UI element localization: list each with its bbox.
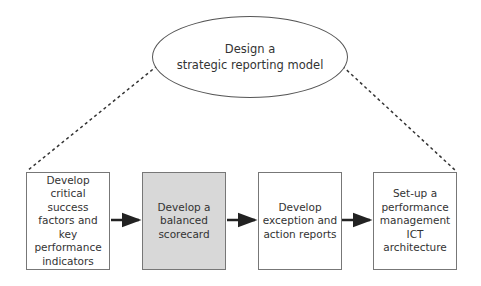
step-label: Develop exception and action reports (262, 201, 338, 242)
step-label: Develop critical success factors and key… (30, 174, 106, 269)
step-label: Develop a balanced scorecard (146, 201, 222, 242)
step-exception-reports: Develop exception and action reports (258, 172, 342, 270)
dotted-line-left (27, 62, 162, 171)
step-critical-success-factors: Develop critical success factors and key… (26, 172, 110, 270)
dotted-line-right (338, 62, 456, 171)
top-node-line2: strategic reporting model (177, 57, 324, 73)
step-balanced-scorecard: Develop a balanced scorecard (142, 172, 226, 270)
top-node-line1: Design a (225, 41, 275, 57)
strategic-reporting-model-node: Design a strategic reporting model (152, 16, 348, 98)
step-ict-architecture: Set-up a performance management ICT arch… (373, 172, 457, 270)
step-label: Set-up a performance management ICT arch… (376, 187, 454, 255)
